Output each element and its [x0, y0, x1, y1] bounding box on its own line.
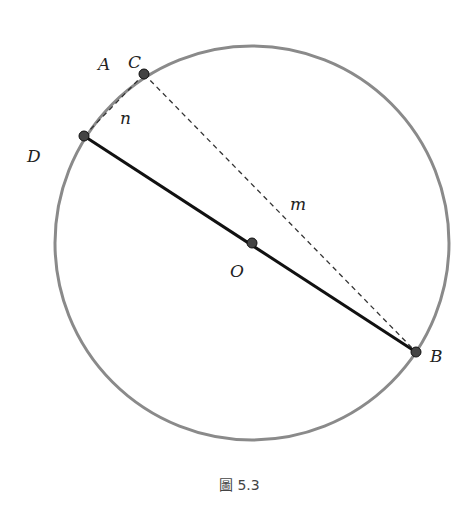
- geometry-figure: A C D O B n m 圖 5.3: [0, 0, 473, 524]
- label-D: D: [26, 146, 41, 166]
- label-n: n: [120, 108, 131, 128]
- point-O: [247, 238, 257, 248]
- label-O: O: [230, 261, 244, 281]
- label-A: A: [96, 54, 110, 74]
- figure-caption: 圖 5.3: [219, 477, 260, 493]
- label-B: B: [429, 346, 443, 366]
- point-D: [79, 131, 89, 141]
- label-C: C: [128, 52, 141, 72]
- point-B: [411, 347, 421, 357]
- chord-CD-dashed: [84, 74, 144, 136]
- label-m: m: [290, 194, 306, 214]
- chord-CB-dashed: [144, 74, 416, 352]
